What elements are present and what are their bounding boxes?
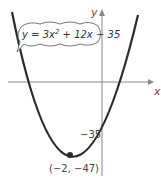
equation-label: y = 3x2 + 12x − 35 [21, 28, 120, 40]
vertex-point [67, 152, 73, 158]
y-axis-arrow-icon [99, 9, 105, 16]
x-axis-label: x [153, 85, 161, 98]
y-axis-label: y [90, 6, 98, 19]
vertex-label: (−2, −47) [49, 163, 99, 174]
parabola-chart: x y (−2, −47) −35 y = 3x2 + 12x − 35 [0, 0, 161, 181]
y-intercept-label: −35 [80, 129, 101, 140]
